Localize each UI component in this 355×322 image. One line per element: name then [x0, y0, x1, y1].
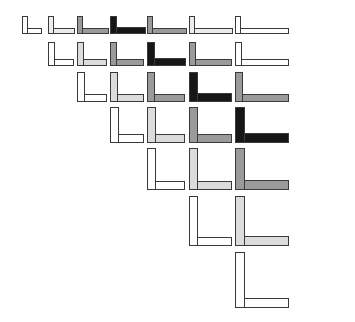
l-shape-row-7 [0, 0, 355, 322]
l-shape-r7c7 [235, 252, 289, 308]
stimulus-array-canvas [0, 0, 355, 322]
l-corner-seam [236, 299, 244, 307]
